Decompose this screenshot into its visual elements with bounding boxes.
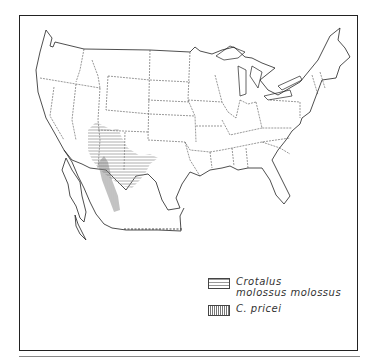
legend-item-molossus: Crotalus molossus molossus	[208, 276, 341, 298]
horizontal-hatch-swatch	[208, 278, 230, 289]
country-outline	[36, 28, 350, 240]
map-legend: Crotalus molossus molossus C. pricei	[208, 276, 341, 321]
vertical-hatch-swatch	[208, 305, 230, 316]
legend-item-pricei: C. pricei	[208, 303, 341, 316]
legend-label-line1: Crotalus	[236, 276, 341, 287]
great-lakes	[216, 46, 302, 100]
legend-label: C. pricei	[236, 303, 282, 314]
state-borders	[40, 49, 325, 176]
legend-label-line2: molossus molossus	[236, 287, 341, 298]
